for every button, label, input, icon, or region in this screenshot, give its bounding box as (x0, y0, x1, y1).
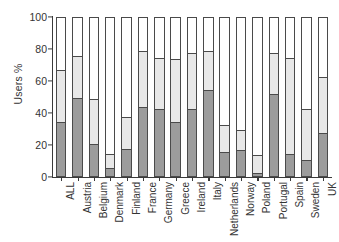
bar-segment (139, 107, 147, 176)
y-tick-mark (48, 48, 52, 49)
bar-belgium (89, 17, 99, 177)
x-tick-mark (225, 177, 226, 181)
x-tick-label-germany: Germany (163, 182, 174, 223)
bar-greece (170, 17, 180, 177)
x-tick-label-portugal: Portugal (278, 182, 289, 219)
bar-sweden (301, 17, 311, 177)
bar-segment (171, 122, 179, 176)
bar-segment (57, 122, 65, 176)
bar-segment (286, 154, 294, 176)
x-tick-label-norway: Norway (245, 182, 256, 216)
bar-segment (270, 53, 278, 95)
x-tick-mark (143, 177, 144, 181)
x-tick-mark (208, 177, 209, 181)
bar-segment (204, 90, 212, 176)
bar-spain (285, 17, 295, 177)
bar-austria (72, 17, 82, 177)
x-tick-label-spain: Spain (294, 182, 305, 208)
x-tick-label-finland: Finland (131, 182, 142, 215)
x-tick-mark (257, 177, 258, 181)
bar-segment (106, 154, 114, 168)
bar-segment (253, 155, 261, 173)
x-tick-label-all: ALL (65, 182, 76, 200)
bar-segment (220, 125, 228, 152)
bar-segment (253, 173, 261, 176)
x-tick-mark (176, 177, 177, 181)
y-tick-label: 0 (0, 171, 52, 183)
bar-portugal (269, 17, 279, 177)
bar-segment (106, 168, 114, 176)
y-tick-mark (48, 176, 52, 177)
x-tick-mark (192, 177, 193, 181)
y-tick-mark (48, 144, 52, 145)
bar-segment (286, 58, 294, 154)
x-tick-mark (159, 177, 160, 181)
bar-segment (155, 109, 163, 176)
x-tick-mark (127, 177, 128, 181)
bar-uk (318, 17, 328, 177)
x-tick-label-france: France (147, 182, 158, 213)
bar-segment (139, 51, 147, 107)
bar-segment (73, 98, 81, 176)
y-tick-label: 40 (0, 107, 52, 119)
x-tick-label-uk: UK (327, 182, 338, 196)
x-tick-mark (110, 177, 111, 181)
x-tick-label-greece: Greece (180, 182, 191, 215)
bar-all (56, 17, 66, 177)
x-tick-label-italy: Italy (212, 182, 223, 200)
y-tick-label: 20 (0, 139, 52, 151)
bar-segment (171, 59, 179, 121)
x-tick-label-ireland: Ireland (196, 182, 207, 213)
x-tick-label-netherlands: Netherlands (229, 182, 240, 236)
x-tick-mark (78, 177, 79, 181)
chart-figure: Users % 020406080100 ALLAustriaBelgiumDe… (0, 0, 339, 242)
bar-segment (122, 117, 130, 149)
bar-segment (188, 109, 196, 176)
bar-segment (122, 149, 130, 176)
x-tick-label-denmark: Denmark (114, 182, 125, 223)
x-tick-mark (274, 177, 275, 181)
bar-segment (270, 94, 278, 176)
bar-norway (236, 17, 246, 177)
y-tick-mark (48, 16, 52, 17)
x-tick-mark (94, 177, 95, 181)
bar-france (138, 17, 148, 177)
x-tick-mark (61, 177, 62, 181)
bar-segment (237, 130, 245, 151)
bar-segment (188, 53, 196, 109)
bar-segment (90, 99, 98, 144)
bar-segment (155, 58, 163, 109)
bar-segment (302, 109, 310, 160)
y-tick-mark (48, 80, 52, 81)
x-tick-mark (290, 177, 291, 181)
bar-segment (319, 77, 327, 133)
bar-segment (204, 51, 212, 89)
bar-segment (90, 144, 98, 176)
x-tick-mark (323, 177, 324, 181)
bar-netherlands (219, 17, 229, 177)
x-tick-label-sweden: Sweden (310, 182, 321, 218)
y-tick-label: 100 (0, 11, 52, 23)
bar-segment (237, 150, 245, 176)
x-tick-label-belgium: Belgium (98, 182, 109, 218)
bar-italy (203, 17, 213, 177)
plot-area (53, 17, 331, 177)
bar-poland (252, 17, 262, 177)
bar-denmark (105, 17, 115, 177)
x-tick-label-austria: Austria (82, 182, 93, 213)
x-tick-mark (241, 177, 242, 181)
bar-segment (302, 160, 310, 176)
bar-germany (154, 17, 164, 177)
y-tick-label: 60 (0, 75, 52, 87)
bar-finland (121, 17, 131, 177)
bar-segment (319, 133, 327, 176)
x-tick-mark (306, 177, 307, 181)
bar-ireland (187, 17, 197, 177)
bar-segment (73, 56, 81, 98)
bar-segment (57, 70, 65, 121)
y-tick-mark (48, 112, 52, 113)
x-tick-label-poland: Poland (261, 182, 272, 213)
bar-segment (220, 152, 228, 176)
y-tick-label: 80 (0, 43, 52, 55)
